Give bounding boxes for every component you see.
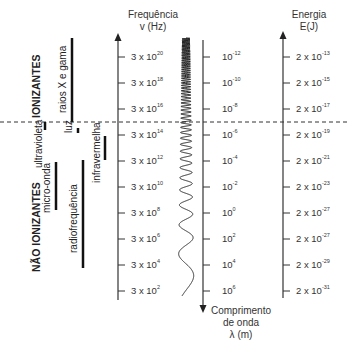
wavelength-tick-base: 10 (222, 51, 233, 62)
frequency-tick-exponent: 20 (157, 50, 163, 56)
energy-tick-label: 2 x 10-17 (296, 102, 330, 114)
energy-tick-exponent: -31 (322, 284, 330, 290)
wavelength-tick-label: 10-12 (222, 50, 241, 62)
frequency-ticks (118, 57, 125, 291)
wavelength-tick-label: 10-6 (222, 128, 237, 140)
energy-tick-label: 2 x 10-31 (296, 284, 330, 296)
energy-tick-base: 2 x 10 (296, 285, 322, 296)
wavelength-tick-label: 106 (222, 284, 236, 296)
frequency-tick-exponent: 8 (157, 206, 160, 212)
frequency-tick-label: 3 x 1010 (131, 180, 163, 192)
diagram-canvas (0, 0, 347, 351)
wavelength-tick-base: 10 (222, 77, 233, 88)
frequency-tick-base: 3 x 10 (131, 207, 157, 218)
frequency-tick-base: 3 x 10 (131, 233, 157, 244)
frequency-tick-exponent: 12 (157, 154, 163, 160)
wavelength-tick-label: 102 (222, 232, 236, 244)
energy-tick-label: 2 x 10-13 (296, 50, 330, 62)
energy-tick-base: 2 x 10 (296, 155, 322, 166)
energy-tick-label: 2 x 10-15 (296, 76, 330, 88)
wavelength-tick-label: 10-4 (222, 154, 237, 166)
frequency-tick-label: 3 x 108 (131, 206, 160, 218)
energy-tick-exponent: -23 (322, 180, 330, 186)
frequency-tick-exponent: 4 (157, 258, 160, 264)
band-label-radiofrequencia: radiofrequência (68, 184, 79, 253)
wavelength-tick-base: 10 (222, 259, 233, 270)
frequency-tick-base: 3 x 10 (131, 259, 157, 270)
wavelength-tick-base: 10 (222, 285, 233, 296)
wavelength-tick-exponent: -4 (233, 154, 238, 160)
energy-tick-base: 2 x 10 (296, 259, 322, 270)
frequency-tick-base: 3 x 10 (131, 155, 157, 166)
energy-tick-label: 2 x 10-21 (296, 154, 330, 166)
energy-tick-exponent: -17 (322, 102, 330, 108)
wavelength-tick-base: 10 (222, 129, 233, 140)
energy-tick-exponent: -21 (322, 154, 330, 160)
frequency-tick-exponent: 2 (157, 284, 160, 290)
energy-tick-exponent: -13 (322, 50, 330, 56)
band-label-luz: luz (63, 120, 74, 133)
frequency-axis-arrow-icon (115, 33, 122, 41)
energy-tick-exponent: -19 (322, 128, 330, 134)
wavelength-title-line1: Comprimento (206, 305, 276, 317)
frequency-tick-base: 3 x 10 (131, 285, 157, 296)
energy-title-line1: Energia (286, 9, 332, 21)
energy-tick-exponent: -27 (322, 232, 330, 238)
wavelength-tick-label: 104 (222, 258, 236, 270)
wavelength-tick-base: 10 (222, 207, 233, 218)
frequency-tick-base: 3 x 10 (131, 129, 157, 140)
frequency-tick-exponent: 16 (157, 102, 163, 108)
wavelength-tick-exponent: 2 (233, 232, 236, 238)
frequency-tick-exponent: 6 (157, 232, 160, 238)
frequency-tick-label: 3 x 102 (131, 284, 160, 296)
energy-tick-label: 2 x 10-27 (296, 232, 330, 244)
frequency-tick-label: 3 x 1014 (131, 128, 163, 140)
wavelength-title-line2: de onda (206, 317, 276, 329)
frequency-axis-title: Frequência v (Hz) (118, 9, 188, 33)
wavelength-tick-base: 10 (222, 233, 233, 244)
band-label-raios-x-gama: raios X e gama (57, 46, 68, 113)
energy-tick-exponent: -27 (322, 206, 330, 212)
energy-tick-base: 2 x 10 (296, 51, 322, 62)
energy-tick-base: 2 x 10 (296, 181, 322, 192)
wavelength-tick-label: 10-2 (222, 180, 237, 192)
energy-tick-base: 2 x 10 (296, 103, 322, 114)
energy-tick-label: 2 x 10-29 (296, 258, 330, 270)
frequency-tick-label: 3 x 1012 (131, 154, 163, 166)
wavelength-tick-label: 100 (222, 206, 236, 218)
energy-tick-exponent: -15 (322, 76, 330, 82)
energy-tick-label: 2 x 10-27 (296, 206, 330, 218)
wavelength-ticks (203, 57, 210, 291)
electromagnetic-spectrum-diagram: IONIZANTES NÃO IONIZANTES raios X e gama… (0, 0, 347, 351)
frequency-title-line2: v (Hz) (118, 21, 188, 33)
ionizing-label: IONIZANTES (30, 54, 42, 118)
wavelength-tick-base: 10 (222, 181, 233, 192)
wavelength-tick-label: 10-8 (222, 102, 237, 114)
frequency-tick-label: 3 x 1020 (131, 50, 163, 62)
energy-axis-title: Energia E(J) (286, 9, 332, 33)
energy-tick-base: 2 x 10 (296, 77, 322, 88)
wavelength-tick-exponent: 0 (233, 206, 236, 212)
energy-tick-label: 2 x 10-23 (296, 180, 330, 192)
frequency-tick-exponent: 10 (157, 180, 163, 186)
wavelength-tick-exponent: -8 (233, 102, 238, 108)
frequency-tick-base: 3 x 10 (131, 77, 157, 88)
energy-tick-label: 2 x 10-19 (296, 128, 330, 140)
band-label-infravermelha: infravermelha (91, 122, 102, 183)
energy-tick-exponent: -29 (322, 258, 330, 264)
wavelength-tick-exponent: -6 (233, 128, 238, 134)
wavelength-tick-label: 10-10 (222, 76, 241, 88)
energy-tick-base: 2 x 10 (296, 207, 322, 218)
frequency-tick-exponent: 14 (157, 128, 163, 134)
band-label-ultravioleta: ultravioleta (33, 120, 44, 168)
frequency-tick-exponent: 18 (157, 76, 163, 82)
frequency-title-line1: Frequência (118, 9, 188, 21)
frequency-tick-base: 3 x 10 (131, 181, 157, 192)
wave-illustration (179, 38, 194, 296)
wavelength-tick-exponent: 6 (233, 284, 236, 290)
wavelength-tick-exponent: -2 (233, 180, 238, 186)
energy-tick-base: 2 x 10 (296, 233, 322, 244)
wavelength-tick-base: 10 (222, 155, 233, 166)
frequency-tick-label: 3 x 106 (131, 232, 160, 244)
energy-tick-base: 2 x 10 (296, 129, 322, 140)
